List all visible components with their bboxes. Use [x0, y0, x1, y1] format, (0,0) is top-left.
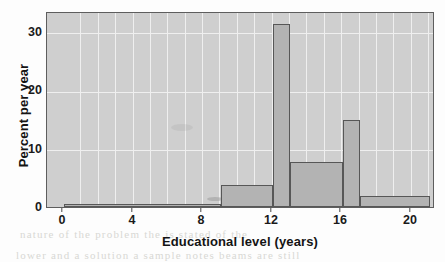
- gridline-vertical: [411, 13, 412, 207]
- histogram-bar: [360, 196, 430, 207]
- x-tick-label: 12: [264, 213, 278, 227]
- x-tick-label: 0: [59, 213, 66, 227]
- gridline-vertical: [393, 13, 394, 207]
- gridline-horizontal: [47, 33, 433, 34]
- y-axis-ticks: 30 20 10 0: [0, 0, 42, 262]
- gridline-vertical: [428, 13, 429, 207]
- gridline-vertical: [133, 13, 134, 207]
- x-tick-label: 4: [129, 213, 136, 227]
- gridline-vertical: [150, 13, 151, 207]
- x-tick-mark: [409, 208, 410, 212]
- histogram-bar: [64, 204, 220, 207]
- gridline-vertical: [237, 13, 238, 207]
- gridline-horizontal: [47, 150, 433, 151]
- histogram-bar: [343, 120, 360, 207]
- y-tick-label: 0: [2, 200, 42, 214]
- gridline-vertical: [185, 13, 186, 207]
- gridline-vertical: [219, 13, 220, 207]
- x-tick-mark: [131, 208, 132, 212]
- x-axis-label: Educational level (years): [46, 234, 434, 249]
- gridline-vertical: [376, 13, 377, 207]
- gridline-vertical: [202, 13, 203, 207]
- page-bleedthrough-line-3: lower and a solution a sample notes beam…: [16, 249, 301, 261]
- histogram-figure: of a crossing file of it sage rally angl…: [0, 0, 445, 262]
- x-tick-label: 16: [333, 213, 347, 227]
- y-tick-label: 20: [2, 83, 42, 97]
- histogram-bar: [273, 24, 290, 207]
- x-tick-mark: [61, 208, 62, 212]
- gridline-vertical: [254, 13, 255, 207]
- x-tick-label: 20: [403, 213, 417, 227]
- print-smudge: [171, 124, 193, 131]
- gridline-vertical: [115, 13, 116, 207]
- gridline-vertical: [80, 13, 81, 207]
- x-tick-mark: [200, 208, 201, 212]
- x-tick-mark: [270, 208, 271, 212]
- gridline-vertical: [167, 13, 168, 207]
- y-tick-label: 10: [2, 142, 42, 156]
- plot-area: [46, 12, 434, 208]
- x-tick-mark: [339, 208, 340, 212]
- x-tick-label: 8: [198, 213, 205, 227]
- y-tick-label: 30: [2, 25, 42, 39]
- gridline-horizontal: [47, 92, 433, 93]
- histogram-bar: [290, 162, 342, 207]
- histogram-bar: [221, 185, 273, 207]
- gridline-vertical: [98, 13, 99, 207]
